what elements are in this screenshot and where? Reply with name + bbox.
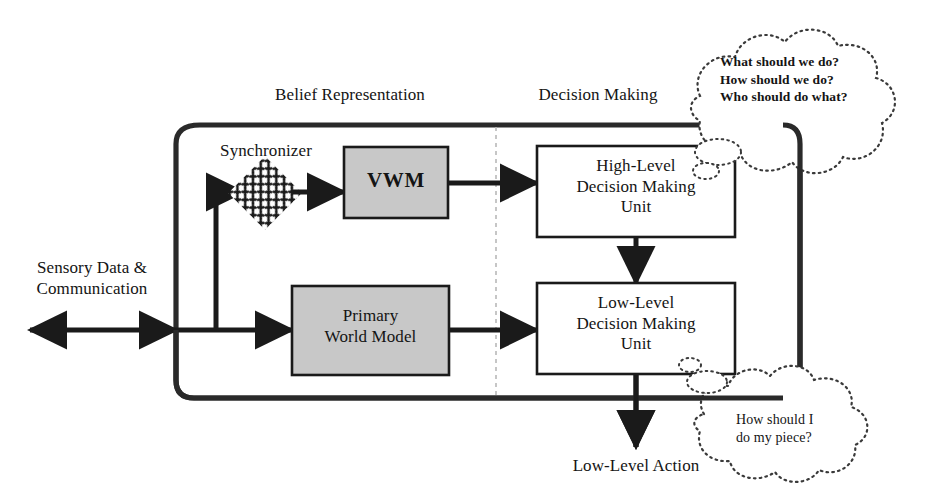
pwm-label-line-1: Primary — [292, 306, 449, 327]
diagram-canvas: Belief Representation Decision Making Sy… — [0, 0, 948, 496]
hldmu-label-line-2: Decision Making — [537, 177, 735, 198]
primary-world-model-label: Primary World Model — [292, 306, 449, 347]
branch-to-synchronizer — [216, 192, 243, 330]
cloud-low-line-2: do my piece? — [736, 429, 896, 447]
hldmu-label-line-1: High-Level — [537, 156, 735, 177]
sensory-input-label-line-2: Communication — [12, 279, 172, 300]
cloud-high-line-3: Who should do what? — [720, 88, 910, 106]
low-level-dmu-label: Low-Level Decision Making Unit — [537, 293, 735, 355]
cloud-high-line-1: What should we do? — [720, 53, 910, 71]
synchronizer-shape — [228, 156, 302, 230]
lldmu-label-line-3: Unit — [537, 334, 735, 355]
low-level-action-label: Low-Level Action — [548, 456, 724, 477]
synchronizer-label: Synchronizer — [196, 141, 336, 162]
sensory-input-label: Sensory Data & Communication — [12, 258, 172, 299]
hldmu-label-line-3: Unit — [537, 197, 735, 218]
vwm-label: VWM — [344, 168, 448, 194]
cloud-high-line-2: How should we do? — [720, 71, 910, 89]
pwm-label-line-2: World Model — [292, 327, 449, 348]
cloud-low-level-text: How should I do my piece? — [736, 411, 896, 447]
cloud-high-level-text: What should we do? How should we do? Who… — [720, 53, 910, 106]
section-header-decision-making: Decision Making — [520, 85, 676, 105]
lldmu-label-line-1: Low-Level — [537, 293, 735, 314]
section-header-belief-representation: Belief Representation — [252, 85, 448, 105]
high-level-dmu-label: High-Level Decision Making Unit — [537, 156, 735, 218]
sensory-input-label-line-1: Sensory Data & — [12, 258, 172, 279]
cloud-low-line-1: How should I — [736, 411, 896, 429]
lldmu-label-line-2: Decision Making — [537, 314, 735, 335]
